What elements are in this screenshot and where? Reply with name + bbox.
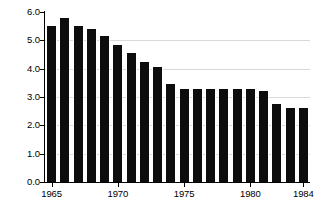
x-axis-tick — [184, 183, 185, 187]
x-axis-tick — [118, 183, 119, 187]
y-axis-tick-label-wrap: 6.0 — [0, 7, 40, 17]
y-axis-tick-label-wrap: 1.0 — [0, 149, 40, 159]
y-axis-tick-label: 1.0 — [2, 149, 40, 159]
y-axis-tick — [40, 154, 44, 155]
y-axis-tick — [40, 125, 44, 126]
y-axis-tick-label: 3.0 — [2, 92, 40, 102]
bar — [126, 53, 137, 182]
bar — [179, 89, 190, 183]
x-axis-tick-label: 1965 — [32, 189, 72, 199]
x-axis-tick — [250, 183, 251, 187]
y-axis-tick-label: 2.0 — [2, 120, 40, 130]
x-axis-tick-label: 1980 — [230, 189, 270, 199]
bar — [258, 91, 269, 182]
y-axis-tick — [40, 182, 44, 183]
bar — [112, 45, 123, 182]
y-axis-tick — [40, 40, 44, 41]
y-axis-tick-label: 6.0 — [2, 7, 40, 17]
plot-area — [45, 12, 310, 182]
bar-chart-figure: 0.01.02.03.04.05.06.0 196519701975198019… — [0, 0, 319, 217]
bar — [152, 67, 163, 182]
y-axis-tick — [40, 69, 44, 70]
y-axis-tick-label-wrap: 4.0 — [0, 64, 40, 74]
bar — [86, 29, 97, 182]
y-axis-tick-label: 5.0 — [2, 35, 40, 45]
bar — [139, 62, 150, 182]
bar — [218, 89, 229, 183]
bar — [59, 18, 70, 182]
x-axis-tick-label: 1970 — [98, 189, 138, 199]
bar — [205, 89, 216, 183]
y-axis-tick-label-wrap: 5.0 — [0, 35, 40, 45]
x-axis-tick-label: 1975 — [164, 189, 204, 199]
y-axis-tick-label-wrap: 0.0 — [0, 177, 40, 187]
y-axis-tick — [40, 12, 44, 13]
bar — [73, 26, 84, 182]
y-axis-tick-label: 4.0 — [2, 64, 40, 74]
bar — [165, 84, 176, 182]
bar — [46, 26, 57, 182]
x-axis-tick — [303, 183, 304, 187]
bar — [192, 89, 203, 183]
x-axis-line — [44, 182, 310, 183]
y-axis-tick-label-wrap: 3.0 — [0, 92, 40, 102]
y-axis-tick-label-wrap: 2.0 — [0, 120, 40, 130]
bar — [271, 104, 282, 182]
bar — [298, 108, 309, 182]
bar — [245, 89, 256, 183]
y-axis-tick-label: 0.0 — [2, 177, 40, 187]
x-axis-tick-label: 1984 — [283, 189, 319, 199]
bar — [285, 108, 296, 182]
bar — [232, 89, 243, 183]
bar — [99, 36, 110, 182]
y-axis-tick — [40, 97, 44, 98]
x-axis-tick — [52, 183, 53, 187]
